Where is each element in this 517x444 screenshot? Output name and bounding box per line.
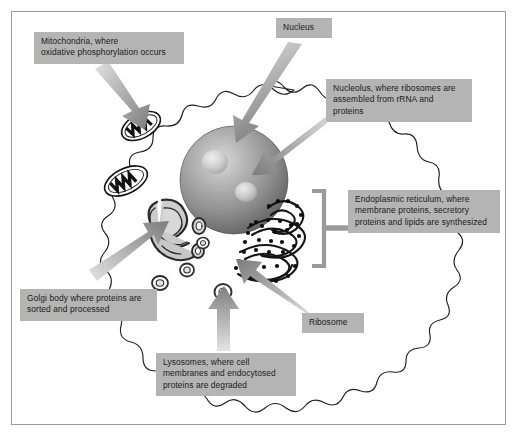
label-mitochondria: Mitochondria, where oxidative phosphoryl…	[34, 32, 184, 64]
connector-arrow-lysosomes	[208, 286, 239, 351]
mitochondrion-2	[100, 160, 152, 203]
label-nucleus: Nucleus	[276, 18, 332, 38]
label-nucleolus: Nucleolus, where ribosomes are assembled…	[326, 79, 472, 122]
label-lysosomes: Lysosomes, where cell membranes and endo…	[156, 353, 296, 396]
nucleolus-structure-1	[202, 150, 228, 174]
label-golgi-body: Golgi body where proteins are sorted and…	[20, 289, 157, 321]
connector-arrow-golgi	[89, 221, 169, 281]
lysosome-4	[197, 238, 209, 249]
label-ribosome: Ribosome	[302, 313, 364, 333]
lysosome-1	[152, 276, 168, 290]
lysosome-2	[180, 264, 194, 277]
nucleolus-structure-2	[235, 182, 257, 202]
connector-bracket-endoplasmic-reticulum	[312, 191, 348, 266]
label-endoplasmic-reticulum: Endoplasmic reticulum, where membrane pr…	[348, 190, 500, 233]
connector-arrow-mitochondria	[95, 61, 150, 130]
figure-frame: Mitochondria, where oxidative phosphoryl…	[11, 11, 506, 425]
connector-arrow-ribosome	[236, 259, 315, 319]
